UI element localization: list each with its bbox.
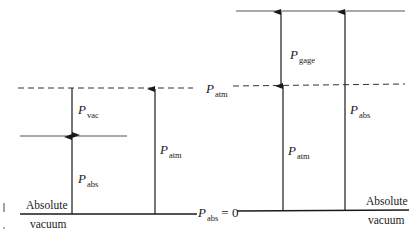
right-vacuum-label: vacuum — [368, 215, 404, 227]
left-absolute-label: Absolute — [26, 200, 68, 212]
left-p-vac-label: Pvac — [78, 103, 99, 116]
center-p-abs-zero-label: Pabs= 0 — [198, 206, 238, 219]
right-absolute-vacuum-baseline — [237, 210, 409, 211]
right-p-gage-label: Pgage — [290, 48, 315, 61]
right-absolute-label: Absolute — [366, 196, 408, 208]
left-p-atm-label: Patm — [160, 143, 182, 156]
margin-dot — [3, 227, 5, 229]
left-vacuum-label: vacuum — [30, 219, 66, 231]
right-p-abs-label: Pabs — [350, 103, 370, 116]
right-atm-dashed-line — [233, 84, 405, 86]
center-p-atm-label: Patm — [206, 82, 228, 95]
right-p-atm-label: Patm — [288, 144, 310, 157]
left-p-abs-label: Pabs — [78, 172, 98, 185]
